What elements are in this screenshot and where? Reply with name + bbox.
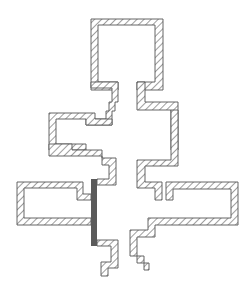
cross-section-diagram: [0, 0, 251, 287]
dark-seal-bar: [91, 179, 97, 246]
solid-bars: [91, 179, 97, 246]
diagram-canvas: [0, 0, 251, 287]
background: [0, 0, 251, 287]
